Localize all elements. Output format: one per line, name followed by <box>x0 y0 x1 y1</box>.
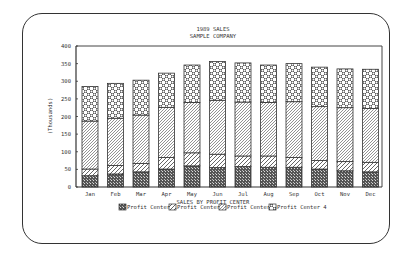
bar-segment <box>108 174 124 187</box>
bar-segment <box>133 172 149 187</box>
legend-swatch-icon <box>269 204 276 210</box>
bar-dec <box>363 69 379 187</box>
x-tick-label: Nov <box>340 191 351 197</box>
legend-item-4: Profit Center 4 <box>269 204 327 210</box>
x-tick-label: Oct <box>315 191 325 197</box>
bar-segment <box>210 154 226 167</box>
plot-area <box>76 46 382 187</box>
bar-segment <box>82 87 98 122</box>
bar-segment <box>82 121 98 169</box>
bar-sep <box>286 64 302 187</box>
bar-oct <box>312 67 328 187</box>
y-axis-label: (Thousands) <box>47 98 53 134</box>
bar-jan <box>82 87 98 187</box>
bar-segment <box>261 167 277 187</box>
bar-segment <box>133 115 149 163</box>
bar-segment <box>363 108 379 162</box>
y-tick-label: 350 <box>61 61 71 67</box>
bar-segment <box>286 102 302 158</box>
bar-segment <box>235 156 251 167</box>
bar-segment <box>363 162 379 172</box>
bar-segment <box>108 118 124 165</box>
bar-segment <box>210 62 226 101</box>
y-tick-label: 100 <box>61 149 71 155</box>
bar-segment <box>82 176 98 187</box>
x-tick-label: Feb <box>111 191 121 197</box>
chart-subtitle: SAMPLE COMPANY <box>190 33 237 39</box>
bar-segment <box>184 166 200 187</box>
bar-segment <box>363 69 379 108</box>
x-tick-label: Apr <box>162 191 173 198</box>
legend-item-3: Profit Center 3 <box>219 204 277 210</box>
y-tick-label: 50 <box>64 166 71 172</box>
bar-segment <box>337 108 353 162</box>
bar-may <box>184 65 200 187</box>
bar-segment <box>133 163 149 171</box>
y-tick-label: 150 <box>61 131 71 137</box>
bar-segment <box>337 162 353 171</box>
legend-label: Profit Center 4 <box>277 204 327 210</box>
x-tick-label: May <box>187 191 198 198</box>
bar-jun <box>210 62 226 187</box>
bar-segment <box>108 83 124 118</box>
bar-segment <box>82 169 98 176</box>
bar-segment <box>235 167 251 187</box>
bar-segment <box>210 168 226 187</box>
bar-segment <box>159 107 175 157</box>
bar-segment <box>261 156 277 167</box>
bar-segment <box>286 157 302 167</box>
bar-aug <box>261 65 277 187</box>
bar-segment <box>286 167 302 187</box>
bar-apr <box>159 73 175 187</box>
bar-segment <box>159 73 175 107</box>
legend-item-1: Profit Center 1 <box>119 204 177 210</box>
legend-swatch-icon <box>219 204 226 210</box>
bar-segment <box>312 161 328 169</box>
bar-segment <box>312 169 328 187</box>
y-tick-label: 250 <box>61 96 71 102</box>
bar-segment <box>210 100 226 154</box>
x-tick-label: Jul <box>238 191 248 197</box>
bar-segment <box>108 165 124 173</box>
bar-segment <box>261 102 277 156</box>
x-tick-label: Mar <box>136 191 147 197</box>
bar-segment <box>337 171 353 187</box>
bar-segment <box>312 107 328 161</box>
bar-segment <box>235 102 251 156</box>
bar-mar <box>133 80 149 187</box>
bar-segment <box>286 64 302 102</box>
x-tick-label: Sep <box>289 191 299 198</box>
y-tick-label: 300 <box>61 78 71 84</box>
bar-segment <box>337 69 353 108</box>
bar-segment <box>159 169 175 187</box>
bar-segment <box>184 102 200 152</box>
y-tick-label: 400 <box>61 43 71 49</box>
chart-title: 1989 SALES <box>196 26 229 32</box>
x-tick-label: Aug <box>264 191 274 198</box>
y-tick-label: 200 <box>61 114 71 120</box>
x-tick-label: Jun <box>213 191 223 197</box>
legend-swatch-icon <box>169 204 176 210</box>
bar-feb <box>108 83 124 187</box>
y-tick-label: 0 <box>68 184 71 190</box>
bar-segment <box>133 80 149 115</box>
bar-segment <box>184 65 200 102</box>
bar-segment <box>159 157 175 169</box>
bar-segment <box>261 65 277 102</box>
stacked-bar-chart: 1989 SALES SAMPLE COMPANY 05010015020025… <box>0 0 403 254</box>
bar-jul <box>235 63 251 187</box>
bar-segment <box>184 153 200 166</box>
bar-segment <box>363 172 379 187</box>
legend: Profit Center 1Profit Center 2Profit Cen… <box>119 204 327 210</box>
bar-nov <box>337 69 353 187</box>
x-axis-labels: JanFebMarAprMayJunJulAugSepOctNovDec <box>85 191 375 198</box>
x-tick-label: Jan <box>85 191 95 197</box>
legend-swatch-icon <box>119 204 126 210</box>
bar-segment <box>312 67 328 106</box>
x-tick-label: Dec <box>366 191 376 197</box>
legend-item-2: Profit Center 2 <box>169 204 227 210</box>
bar-segment <box>235 63 251 102</box>
